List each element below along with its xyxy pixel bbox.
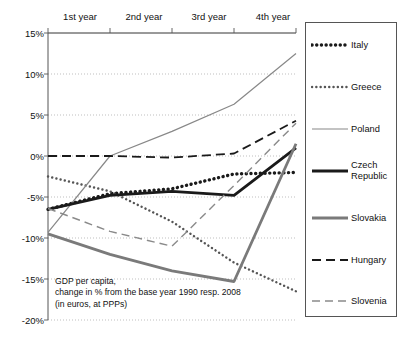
legend-swatch-greece <box>311 80 349 94</box>
legend-item-italy[interactable]: Italy <box>306 35 398 55</box>
legend-item-greece[interactable]: Greece <box>306 77 398 97</box>
legend-swatch-slovenia <box>311 294 349 308</box>
legend-item-poland[interactable]: Poland <box>306 119 398 139</box>
y-tick-label: -20% <box>2 315 44 326</box>
legend-swatch-poland <box>311 122 349 136</box>
legend-swatch-hungary <box>311 253 349 267</box>
legend-item-slovenia[interactable]: Slovenia <box>306 291 398 311</box>
y-tick-label: 10% <box>2 69 44 80</box>
chart-annotation: GDP per capita, change in % from the bas… <box>55 276 295 310</box>
legend-swatch-slovakia <box>311 211 349 225</box>
x-tick-label-4th-year: 4th year <box>241 11 305 22</box>
chart-legend: Italy Greece Poland Czech Republic Slova… <box>305 22 397 317</box>
legend-swatch-czech-republic <box>311 164 349 178</box>
legend-label: Poland <box>349 124 380 135</box>
legend-label: Slovenia <box>349 296 387 307</box>
annotation-line-2: change in % from the base year 1990 resp… <box>55 287 295 298</box>
legend-item-slovakia[interactable]: Slovakia <box>306 208 398 228</box>
y-tick-label: 15% <box>2 28 44 39</box>
legend-item-czech-republic[interactable]: Czech Republic <box>306 161 398 181</box>
x-tick-label-2nd-year: 2nd year <box>112 11 176 22</box>
legend-label: Hungary <box>349 255 386 266</box>
y-tick-label: 0% <box>2 151 44 162</box>
y-tick-label: -5% <box>2 192 44 203</box>
legend-label: Greece <box>349 82 382 93</box>
x-tick-label-1st-year: 1st year <box>48 11 112 22</box>
legend-label: Czech Republic <box>349 160 398 181</box>
legend-label: Slovakia <box>349 213 386 224</box>
annotation-line-3: (in euros, at PPPs) <box>55 299 295 310</box>
y-tick-label: 5% <box>2 110 44 121</box>
x-tick-label-3rd-year: 3rd year <box>177 11 241 22</box>
legend-swatch-italy <box>311 38 349 52</box>
legend-label: Italy <box>349 40 368 51</box>
legend-item-hungary[interactable]: Hungary <box>306 250 398 270</box>
y-tick-label: -10% <box>2 233 44 244</box>
y-tick-label: -15% <box>2 274 44 285</box>
chart-container: 15% 10% 5% 0% -5% -10% -15% -20% 1st yea… <box>0 0 405 337</box>
annotation-line-1: GDP per capita, <box>55 276 295 287</box>
